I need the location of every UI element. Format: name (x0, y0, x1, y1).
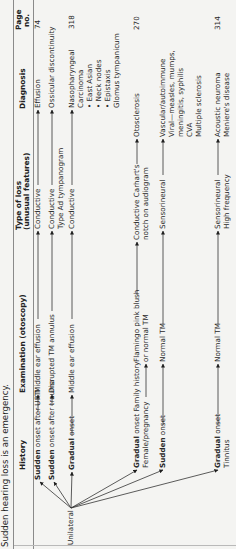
flow-arrows (0, 0, 236, 549)
fan-arrow-row2 (54, 482, 71, 508)
fan-arrow-row1 (40, 482, 71, 508)
fan-arrow-row3 (71, 472, 72, 508)
fan-arrow-row4 (71, 470, 137, 508)
rotated-table-page: Sudden hearing loss is an emergency. His… (0, 0, 236, 549)
fan-arrow-row6 (71, 470, 218, 508)
fan-arrow-row5 (71, 470, 163, 508)
